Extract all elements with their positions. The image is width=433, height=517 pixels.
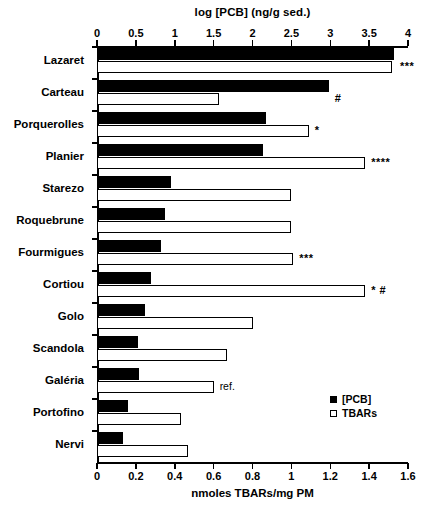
bar-tbars	[97, 157, 365, 169]
chart-figure: log [PCB] (ng/g sed.) 00.511.522.533.54 …	[0, 0, 433, 517]
bar-pcb	[97, 112, 266, 124]
bottom-axis-tick	[213, 463, 215, 469]
top-axis-tick	[368, 40, 370, 46]
category-label: Cortiou	[0, 278, 84, 290]
bottom-axis-tick-label: 0.4	[167, 470, 182, 482]
bar-group: ***	[97, 46, 408, 78]
top-axis-tick	[291, 40, 293, 46]
bottom-axis-tick-label: 1.6	[400, 470, 415, 482]
bottom-axis-tick	[291, 463, 293, 469]
bar-tbars	[97, 61, 392, 73]
bottom-axis-tick-label: 1.2	[323, 470, 338, 482]
bottom-axis-tick	[174, 463, 176, 469]
bottom-axis-tick	[135, 463, 137, 469]
bar-tbars	[97, 125, 309, 137]
bar-group	[97, 334, 408, 366]
bar-pcb	[97, 240, 161, 252]
bar-group: ****	[97, 142, 408, 174]
significance-annotation: * #	[371, 284, 386, 296]
open-square-icon	[330, 410, 337, 417]
top-axis-tick	[174, 40, 176, 46]
bar-group	[97, 174, 408, 206]
bar-tbars	[97, 93, 219, 105]
top-axis-tick	[96, 40, 98, 46]
bottom-axis-tick-label: 1	[288, 470, 294, 482]
bar-pcb	[97, 80, 329, 92]
top-axis-tick	[407, 40, 409, 46]
category-label: Scandola	[0, 342, 84, 354]
category-label: Carteau	[0, 86, 84, 98]
top-axis-tick-label: 4	[405, 27, 411, 39]
bottom-axis-tick-label: 0	[94, 470, 100, 482]
category-label: Lazaret	[0, 54, 84, 66]
top-axis-tick-label: 2.5	[284, 27, 299, 39]
chart-legend: [PCB]TBARs	[330, 392, 377, 420]
legend-label: TBARs	[342, 407, 377, 419]
category-label: Planier	[0, 150, 84, 162]
bar-tbars	[97, 253, 293, 265]
bar-pcb	[97, 208, 165, 220]
bottom-axis-tick-label: 0.2	[128, 470, 143, 482]
bar-tbars	[97, 285, 365, 297]
bar-pcb	[97, 272, 151, 284]
bar-tbars	[97, 221, 291, 233]
bar-tbars	[97, 349, 227, 361]
bar-group	[97, 302, 408, 334]
top-axis-tick	[213, 40, 215, 46]
bar-tbars	[97, 317, 253, 329]
bar-pcb	[97, 432, 123, 444]
bottom-axis-tick	[407, 463, 409, 469]
category-label: Starezo	[0, 182, 84, 194]
significance-annotation: ref.	[220, 380, 235, 392]
significance-annotation: #	[335, 92, 342, 104]
category-label: Golo	[0, 310, 84, 322]
significance-annotation: ****	[371, 156, 390, 168]
category-label: Portofino	[0, 406, 84, 418]
top-axis-tick-label: 2	[249, 27, 255, 39]
bar-tbars	[97, 189, 291, 201]
bar-tbars	[97, 381, 214, 393]
legend-label: [PCB]	[342, 393, 371, 405]
bottom-axis-tick-label: 0.6	[206, 470, 221, 482]
bar-pcb	[97, 336, 138, 348]
bar-group: * #	[97, 270, 408, 302]
bar-group: #	[97, 78, 408, 110]
legend-item: TBARs	[330, 406, 377, 420]
category-label: Nervi	[0, 438, 84, 450]
top-axis-tick	[135, 40, 137, 46]
bottom-axis-tick-label: 1.4	[361, 470, 376, 482]
top-axis-tick-label: 1.5	[206, 27, 221, 39]
bar-pcb	[97, 368, 139, 380]
top-axis-tick	[330, 40, 332, 46]
bottom-axis-tick	[330, 463, 332, 469]
top-axis-tick-label: 0	[94, 27, 100, 39]
bar-tbars	[97, 413, 181, 425]
bar-pcb	[97, 144, 263, 156]
bar-group	[97, 206, 408, 238]
bar-pcb	[97, 48, 394, 60]
bottom-axis-tick	[252, 463, 254, 469]
category-axis-labels: LazaretCarteauPorquerollesPlanierStarezo…	[0, 46, 92, 462]
bar-pcb	[97, 304, 145, 316]
legend-item: [PCB]	[330, 392, 377, 406]
bar-pcb	[97, 400, 128, 412]
bar-group: *	[97, 110, 408, 142]
bottom-axis-tick-label: 0.8	[245, 470, 260, 482]
category-label: Porquerolles	[0, 118, 84, 130]
top-axis-tick-label: 3	[327, 27, 333, 39]
category-label: Fourmigues	[0, 246, 84, 258]
top-axis-tick-label: 0.5	[128, 27, 143, 39]
top-axis-tick	[252, 40, 254, 46]
top-axis-tick-labels: 00.511.522.533.54	[0, 27, 433, 41]
bottom-axis-tick	[368, 463, 370, 469]
top-axis-tick-label: 3.5	[361, 27, 376, 39]
significance-annotation: ***	[400, 60, 414, 72]
bottom-axis-title: nmoles TBARs/mg PM	[97, 487, 408, 499]
significance-annotation: ***	[299, 252, 313, 264]
category-label: Roquebrune	[0, 214, 84, 226]
bar-tbars	[97, 445, 188, 457]
significance-annotation: *	[315, 124, 320, 136]
top-axis-title: log [PCB] (ng/g sed.)	[97, 6, 408, 18]
category-label: Galéria	[0, 374, 84, 386]
bar-pcb	[97, 176, 171, 188]
